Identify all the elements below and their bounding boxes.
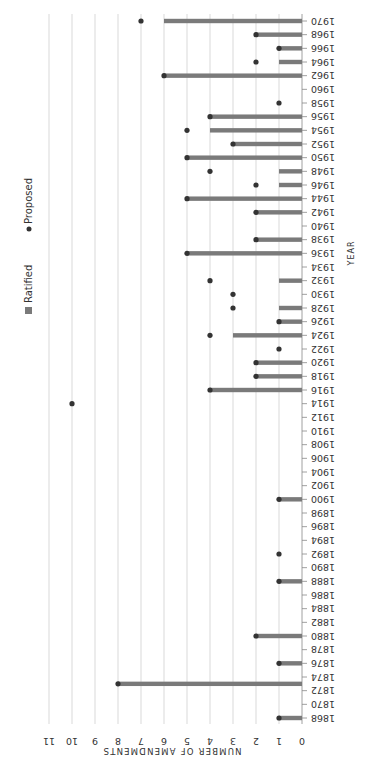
proposed-dot <box>184 196 189 201</box>
proposed-dot <box>184 155 189 160</box>
year-tick-label: 1880 <box>311 631 335 642</box>
year-tick-label: 1892 <box>311 549 335 560</box>
proposed-dot <box>276 551 281 556</box>
ratified-bar <box>279 579 302 583</box>
year-tick-label: 1872 <box>311 685 335 696</box>
year-tick-label: 1926 <box>311 316 335 327</box>
year-tick-label: 1868 <box>311 713 335 724</box>
proposed-dot <box>276 661 281 666</box>
y-axis-title: NUMBER OF AMENDMENTS <box>102 746 241 756</box>
proposed-dot <box>207 169 212 174</box>
ratified-bar <box>256 634 302 638</box>
ratified-bar <box>279 716 302 720</box>
year-axis: 1868187018721874187618781880188218841886… <box>302 16 335 724</box>
ratified-bar <box>279 661 302 665</box>
count-tick-label: 9 <box>92 736 98 747</box>
grid-lines <box>49 14 302 724</box>
proposed-dot <box>276 715 281 720</box>
proposed-dot <box>276 579 281 584</box>
proposed-dot <box>184 251 189 256</box>
year-tick-label: 1906 <box>311 453 335 464</box>
ratified-bar <box>233 142 302 146</box>
ratified-bar <box>279 183 302 187</box>
proposed-dot-icon <box>27 227 32 232</box>
year-tick-label: 1952 <box>311 139 335 150</box>
ratified-bar <box>256 32 302 36</box>
ratified-bar <box>187 196 302 200</box>
year-tick-label: 1920 <box>311 357 335 368</box>
year-tick-label: 1876 <box>311 658 335 669</box>
year-tick-label: 1874 <box>311 672 335 683</box>
x-axis-title: YEAR <box>347 241 356 267</box>
amendments-chart: 1868187018721874187618781880188218841886… <box>0 0 365 766</box>
year-tick-label: 1950 <box>311 152 335 163</box>
year-tick-label: 1968 <box>311 29 335 40</box>
year-tick-label: 1942 <box>311 207 335 218</box>
proposed-dot <box>207 333 212 338</box>
legend-proposed-label: Proposed <box>23 178 34 224</box>
proposed-dot <box>253 374 258 379</box>
year-tick-label: 1886 <box>311 590 335 601</box>
year-tick-label: 1896 <box>311 521 335 532</box>
year-tick-label: 1948 <box>311 166 335 177</box>
ratified-bar <box>164 73 302 77</box>
year-tick-label: 1932 <box>311 275 335 286</box>
year-tick-label: 1916 <box>311 385 335 396</box>
year-tick-label: 1924 <box>311 330 335 341</box>
ratified-bar <box>279 169 302 173</box>
ratified-bar <box>210 388 302 392</box>
year-tick-label: 1904 <box>311 467 335 478</box>
year-tick-label: 1958 <box>311 98 335 109</box>
count-tick-label: 2 <box>253 736 259 747</box>
proposed-dot <box>276 497 281 502</box>
ratified-bar <box>279 46 302 50</box>
year-tick-label: 1966 <box>311 43 335 54</box>
proposed-dot <box>253 633 258 638</box>
year-tick-label: 1956 <box>311 111 335 122</box>
legend: Ratified Proposed <box>23 178 34 314</box>
count-tick-label: 8 <box>115 736 121 747</box>
proposed-dot <box>207 278 212 283</box>
proposed-dot <box>253 360 258 365</box>
ratified-bar <box>233 333 302 337</box>
count-axis: 01234567891011 <box>43 736 305 747</box>
count-tick-label: 10 <box>66 736 78 747</box>
year-tick-label: 1918 <box>311 371 335 382</box>
proposed-dot <box>230 292 235 297</box>
proposed-dot <box>276 319 281 324</box>
proposed-dot <box>253 32 258 37</box>
legend-item-ratified: Ratified <box>23 265 34 314</box>
ratified-bar <box>256 360 302 364</box>
year-tick-label: 1960 <box>311 84 335 95</box>
year-tick-label: 1914 <box>311 398 335 409</box>
count-tick-label: 7 <box>138 736 144 747</box>
year-tick-label: 1928 <box>311 303 335 314</box>
ratified-swatch-icon <box>25 307 32 314</box>
proposed-dot <box>161 73 166 78</box>
proposed-dot <box>184 128 189 133</box>
ratified-bar <box>210 128 302 132</box>
count-tick-label: 5 <box>184 736 190 747</box>
proposed-dot <box>230 141 235 146</box>
year-tick-label: 1946 <box>311 180 335 191</box>
count-tick-label: 1 <box>276 736 282 747</box>
year-tick-label: 1944 <box>311 193 335 204</box>
year-tick-label: 1954 <box>311 125 335 136</box>
year-tick-label: 1934 <box>311 262 335 273</box>
proposed-dot <box>253 59 258 64</box>
ratified-bar <box>279 278 302 282</box>
proposed-dot <box>207 387 212 392</box>
proposed-dot <box>253 210 258 215</box>
year-tick-label: 1964 <box>311 57 335 68</box>
year-tick-label: 1922 <box>311 344 335 355</box>
proposed-dot <box>230 305 235 310</box>
ratified-bar <box>256 237 302 241</box>
proposed-dot <box>115 681 120 686</box>
ratified-bar <box>256 210 302 214</box>
year-tick-label: 1900 <box>311 494 335 505</box>
proposed-dots <box>69 18 281 720</box>
ratified-bar <box>256 374 302 378</box>
count-tick-label: 3 <box>230 736 236 747</box>
proposed-dot <box>276 346 281 351</box>
proposed-dot <box>253 182 258 187</box>
